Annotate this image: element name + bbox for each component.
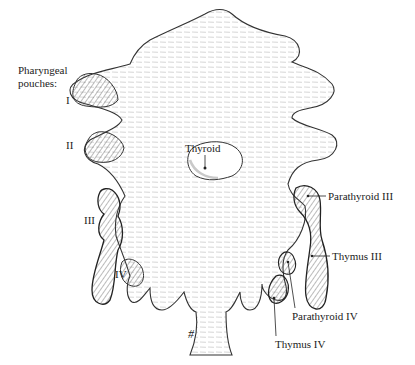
label-parathyroid-iv: Parathyroid IV (292, 310, 358, 322)
label-parathyroid-iii: Parathyroid III (328, 190, 393, 202)
label-thyroid: Thyroid (185, 142, 220, 154)
pouch-label-i: I (66, 94, 70, 106)
pouch-iii-left (92, 189, 123, 304)
pouch-label-ii: II (66, 139, 73, 151)
pouch-iii-right (294, 186, 328, 309)
title-line-2: pouches: (18, 77, 57, 89)
section-mark: # (188, 328, 194, 340)
pouch-iv-right-upper (279, 252, 296, 274)
pouch-label-iii: III (84, 214, 95, 226)
label-thymus-iv: Thymus IV (275, 338, 325, 350)
pouch-label-iv: IV (115, 268, 127, 280)
pharynx-floor (70, 10, 337, 356)
title-line-1: Pharyngeal (18, 64, 67, 76)
label-thymus-iii: Thymus III (332, 250, 382, 262)
